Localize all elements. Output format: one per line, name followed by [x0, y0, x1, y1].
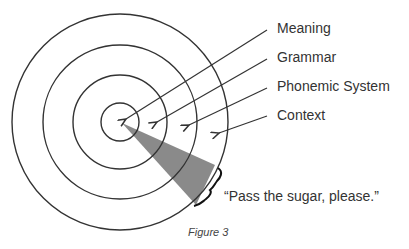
arrow-meaning — [126, 30, 267, 119]
utterance-quote: “Pass the sugar, please.” — [224, 188, 379, 204]
figure-caption: Figure 3 — [188, 226, 228, 239]
label-context: Context — [277, 107, 325, 123]
label-meaning: Meaning — [277, 20, 331, 36]
label-grammar: Grammar — [277, 49, 336, 65]
label-phonemic-system: Phonemic System — [277, 78, 390, 94]
arrow-context — [219, 116, 267, 133]
ring-grammar — [73, 75, 167, 169]
concentric-language-diagram: Meaning Grammar Phonemic System Context … — [0, 0, 409, 249]
ring-meaning — [101, 103, 139, 141]
diagram-graphic — [0, 0, 409, 249]
arrow-grammar — [157, 59, 267, 122]
